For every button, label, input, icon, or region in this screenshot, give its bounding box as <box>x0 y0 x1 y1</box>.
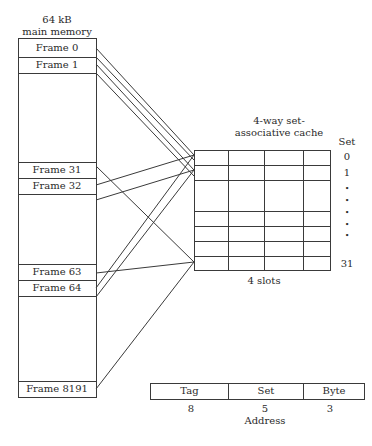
ellipsis-dot: • <box>338 231 356 240</box>
ellipsis-dot: • <box>338 208 356 217</box>
ellipsis-dot: • <box>338 196 356 205</box>
frame-8191-label: Frame 8191 <box>18 381 96 397</box>
set-31-label: 31 <box>338 258 356 269</box>
tag-bits-label: 8 <box>176 403 206 414</box>
cache-title-line2: associative cache <box>224 127 334 138</box>
set-header-label: Set <box>334 136 360 147</box>
frame-1-label: Frame 1 <box>18 57 96 73</box>
ellipsis-dot: • <box>338 184 356 193</box>
frame-0-label: Frame 0 <box>18 40 96 56</box>
frame-64-label: Frame 64 <box>18 280 96 296</box>
frame-31-label: Frame 31 <box>18 162 96 178</box>
address-caption: Address <box>230 415 300 426</box>
main-memory-box <box>19 39 97 398</box>
cache-title-line1: 4-way set- <box>224 115 334 126</box>
byte-bits-label: 3 <box>315 403 345 414</box>
frame-32-label: Frame 32 <box>18 178 96 194</box>
set-0-label: 0 <box>338 151 356 162</box>
memory-title-label: main memory <box>10 26 104 37</box>
set-1-label: 1 <box>338 167 356 178</box>
address-set-field: Set <box>229 383 303 399</box>
cache-grid <box>195 151 331 271</box>
address-byte-field: Byte <box>304 383 364 399</box>
ellipsis-dot: • <box>338 220 356 229</box>
set-bits-label: 5 <box>250 403 280 414</box>
address-tag-field: Tag <box>151 383 228 399</box>
frame-63-label: Frame 63 <box>18 264 96 280</box>
slots-label: 4 slots <box>234 275 294 286</box>
memory-size-label: 64 kB <box>18 14 96 25</box>
